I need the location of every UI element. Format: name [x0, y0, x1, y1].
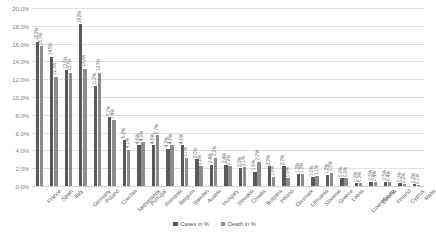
- bar-death[interactable]: [69, 73, 72, 186]
- bar-cases[interactable]: [166, 149, 169, 186]
- bar-group: 1.0%1.1%: [308, 8, 323, 186]
- bar-death[interactable]: [127, 150, 130, 186]
- bar-value-label: 0.9%: [285, 167, 290, 177]
- x-axis-category-label: Finland: [395, 188, 412, 205]
- bar-value-label: 2.2%: [266, 155, 271, 165]
- bar-group: 4.6%4.9%: [134, 8, 149, 186]
- bar-death[interactable]: [141, 142, 144, 186]
- bar-value-label: 0.4%: [372, 171, 377, 181]
- bar-death[interactable]: [40, 46, 43, 186]
- bar-value-label: 5.7%: [154, 124, 159, 134]
- y-axis-tick-label: 0.0%: [16, 183, 30, 190]
- bar-value-label: 5.2%: [121, 128, 126, 138]
- bar-death[interactable]: [54, 77, 57, 186]
- bar-group: 0.2%0.1%: [409, 8, 424, 186]
- bar-value-label: 4.6%: [168, 134, 173, 144]
- bar-cases[interactable]: [239, 168, 242, 186]
- x-axis-category-label: Estonia: [380, 188, 397, 205]
- bar-cases[interactable]: [210, 165, 213, 186]
- legend-swatch-icon: [173, 222, 178, 227]
- bar-death[interactable]: [315, 176, 318, 186]
- bar-death[interactable]: [243, 167, 246, 186]
- bar-death[interactable]: [272, 177, 275, 186]
- bar-value-label: 0.1%: [415, 174, 420, 184]
- bar-death[interactable]: [156, 135, 159, 186]
- bar-value-label: 4.1%: [125, 138, 130, 148]
- bar-group: 18.2%13.2%: [76, 8, 91, 186]
- bar-value-label: 0.9%: [343, 167, 348, 177]
- bar-value-label: 13.2%: [81, 55, 86, 67]
- bar-group: 4.2%4.6%: [163, 8, 178, 186]
- bar-value-label: 1.3%: [299, 163, 304, 173]
- bar-death[interactable]: [228, 166, 231, 186]
- bar-group: 2.0%2.1%: [235, 8, 250, 186]
- bar-group: 2.2%0.9%: [279, 8, 294, 186]
- x-axis-category-label: Spain: [60, 188, 74, 202]
- bar-group: 2.4%3.2%: [206, 8, 221, 186]
- bar-cases[interactable]: [326, 175, 329, 186]
- bar-cases[interactable]: [94, 86, 97, 186]
- bar-value-label: 0.3%: [357, 172, 362, 182]
- y-axis-tick-label: 18.0%: [12, 22, 29, 29]
- bar-death[interactable]: [286, 178, 289, 186]
- bar-death[interactable]: [112, 120, 115, 186]
- bar-cases[interactable]: [224, 165, 227, 186]
- bar-death[interactable]: [83, 69, 86, 186]
- bar-value-label: 12.7%: [67, 59, 72, 71]
- bar-value-label: 3.1%: [183, 147, 188, 157]
- bar-death[interactable]: [170, 145, 173, 186]
- y-axis-tick-label: 14.0%: [12, 58, 29, 65]
- bar-death[interactable]: [98, 73, 101, 186]
- bar-cases[interactable]: [36, 42, 39, 186]
- bar-death[interactable]: [257, 162, 260, 186]
- legend-entry[interactable]: Death in %: [221, 221, 256, 227]
- bar-value-label: 15.7%: [38, 33, 43, 45]
- bar-cases[interactable]: [340, 178, 343, 186]
- legend-entry[interactable]: Cases in %: [173, 221, 209, 227]
- bar-group: 0.3%0.2%: [395, 8, 410, 186]
- legend-label: Cases in %: [180, 221, 209, 227]
- bar-group: 0.3%0.3%: [351, 8, 366, 186]
- bar-cases[interactable]: [108, 117, 111, 186]
- y-axis-tick-label: 6.0%: [16, 129, 30, 136]
- bar-value-label: 18.2%: [77, 10, 82, 22]
- bar-group: 5.2%4.1%: [119, 8, 134, 186]
- bar-group: 14.5%12.3%: [47, 8, 62, 186]
- bar-group: 0.9%0.9%: [337, 8, 352, 186]
- bar-death[interactable]: [185, 158, 188, 186]
- x-axis-category-label: Italy: [73, 188, 84, 199]
- bar-cases[interactable]: [297, 174, 300, 186]
- bar-value-label: 14.5%: [48, 43, 53, 55]
- y-axis-tick-label: 2.0%: [16, 165, 30, 172]
- bar-value-label: 2.7%: [255, 151, 260, 161]
- bar-death[interactable]: [330, 173, 333, 186]
- bar-value-label: 4.9%: [139, 131, 144, 141]
- y-axis-tick-label: 8.0%: [16, 111, 30, 118]
- bar-value-label: 7.4%: [110, 109, 115, 119]
- bar-death[interactable]: [199, 166, 202, 186]
- bar-cases[interactable]: [311, 177, 314, 186]
- y-axis: 20.0%18.0%16.0%14.0%12.0%10.0%8.0%6.0%4.…: [0, 8, 32, 186]
- bar-group: 13.0%12.7%: [61, 8, 76, 186]
- bar-group: 1.3%1.3%: [293, 8, 308, 186]
- bar-death[interactable]: [301, 174, 304, 186]
- plot-area: 16.2%15.7%14.5%12.3%13.0%12.7%18.2%13.2%…: [32, 8, 424, 186]
- bar-value-label: 2.2%: [280, 155, 285, 165]
- bar-group: 2.4%2.2%: [221, 8, 236, 186]
- bar-group: 3.0%2.2%: [192, 8, 207, 186]
- bar-cases[interactable]: [65, 70, 68, 186]
- legend-swatch-icon: [221, 222, 226, 227]
- bar-death[interactable]: [344, 178, 347, 186]
- bar-cases[interactable]: [50, 57, 53, 186]
- bar-group: 0.5%0.4%: [366, 8, 381, 186]
- bar-cases[interactable]: [152, 145, 155, 186]
- bar-value-label: 12.7%: [96, 59, 101, 71]
- bar-group: 1.6%2.7%: [250, 8, 265, 186]
- bar-cases[interactable]: [253, 172, 256, 186]
- bar-cases[interactable]: [137, 145, 140, 186]
- x-axis-category-label: Czechia: [120, 188, 138, 206]
- bar-cases[interactable]: [79, 24, 82, 186]
- bar-value-label: 1.1%: [314, 165, 319, 175]
- bar-value-label: 0.2%: [401, 173, 406, 183]
- bar-death[interactable]: [214, 158, 217, 186]
